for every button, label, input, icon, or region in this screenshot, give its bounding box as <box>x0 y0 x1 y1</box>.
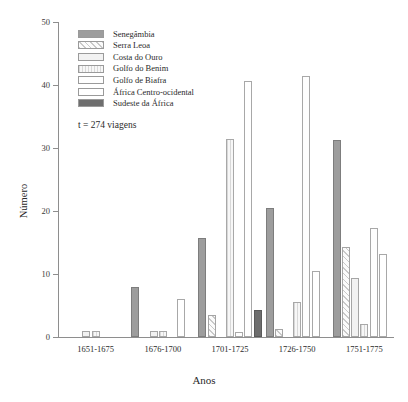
legend-item: Golfo de Biafra <box>78 74 194 86</box>
legend-label: Golfo de Biafra <box>113 76 166 85</box>
y-tick-mark <box>53 85 58 86</box>
legend-label: Senegâmbia <box>113 30 155 39</box>
legend: SenegâmbiaSerra LeoaCosta do OuroGolfo d… <box>78 28 194 109</box>
legend-label: Sudeste da África <box>113 99 173 108</box>
bar <box>150 331 158 337</box>
x-tick-label: 1676-1700 <box>135 344 191 354</box>
bar <box>379 254 387 337</box>
legend-item: Serra Leoa <box>78 40 194 52</box>
x-axis-line <box>58 337 394 338</box>
legend-swatch <box>78 53 104 61</box>
y-tick: 0 <box>58 337 59 338</box>
bar <box>159 331 167 337</box>
y-tick-mark <box>53 337 58 338</box>
y-tick: 40 <box>58 85 59 86</box>
y-tick-label: 0 <box>46 332 50 342</box>
legend-swatch <box>78 99 104 107</box>
y-tick-label: 50 <box>42 17 51 27</box>
bar <box>370 228 378 337</box>
x-tick-label: 1651-1675 <box>68 344 124 354</box>
x-tick-label: 1726-1750 <box>269 344 325 354</box>
total-annotation: t = 274 viagens <box>78 120 136 130</box>
bar <box>293 302 301 337</box>
legend-label: Serra Leoa <box>113 41 150 50</box>
legend-item: África Centro-ocidental <box>78 86 194 98</box>
legend-swatch <box>78 65 104 73</box>
bar <box>254 310 262 337</box>
y-tick: 10 <box>58 274 59 275</box>
bar <box>177 299 185 337</box>
x-axis-title: Anos <box>0 374 408 386</box>
y-tick: 30 <box>58 148 59 149</box>
y-axis-line <box>58 22 59 338</box>
y-tick-label: 30 <box>42 143 51 153</box>
bar-group <box>333 22 396 337</box>
bar-group <box>266 22 329 337</box>
bar <box>275 329 283 337</box>
legend-label: África Centro-ocidental <box>113 88 194 97</box>
bar <box>208 315 216 337</box>
x-tick-label: 1701-1725 <box>202 344 258 354</box>
y-axis-title: Número <box>18 184 29 218</box>
legend-item: Costa do Ouro <box>78 51 194 63</box>
bar <box>226 139 234 337</box>
legend-swatch <box>78 88 104 96</box>
bar <box>302 76 310 337</box>
bar <box>266 208 274 337</box>
y-tick-label: 20 <box>42 206 51 216</box>
y-tick-mark <box>53 211 58 212</box>
bar <box>351 278 359 337</box>
x-tick-label: 1751-1775 <box>336 344 392 354</box>
y-tick-label: 10 <box>42 269 51 279</box>
legend-swatch <box>78 76 104 84</box>
legend-label: Golfo do Benim <box>113 64 168 73</box>
bar <box>342 247 350 337</box>
legend-swatch <box>78 30 104 38</box>
bar <box>333 140 341 337</box>
bar <box>360 324 368 337</box>
bar <box>198 238 206 337</box>
y-tick-label: 40 <box>42 80 51 90</box>
bar-group <box>198 22 261 337</box>
bar <box>131 287 139 337</box>
legend-item: Senegâmbia <box>78 28 194 40</box>
y-tick-mark <box>53 148 58 149</box>
y-tick-mark <box>53 274 58 275</box>
legend-swatch <box>78 41 104 49</box>
bar-chart: Número 01020304050 1651-16751676-1700170… <box>0 0 408 402</box>
y-tick: 50 <box>58 22 59 23</box>
bar <box>92 331 100 337</box>
legend-label: Costa do Ouro <box>113 53 163 62</box>
bar <box>82 331 90 337</box>
y-tick-mark <box>53 22 58 23</box>
bar <box>235 332 243 337</box>
y-tick: 20 <box>58 211 59 212</box>
bar <box>312 271 320 337</box>
legend-item: Golfo do Benim <box>78 63 194 75</box>
bar <box>244 81 252 337</box>
legend-item: Sudeste da África <box>78 98 194 110</box>
